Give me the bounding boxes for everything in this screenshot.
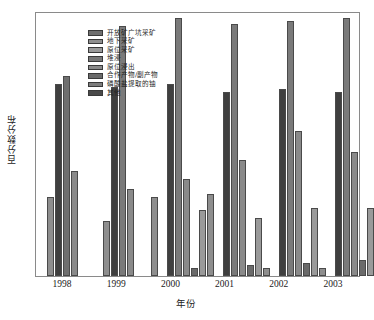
bar xyxy=(103,221,110,276)
legend-label: 磷酸盐提取的铀 xyxy=(107,81,156,88)
bar xyxy=(343,18,350,276)
y-axis-title: 百分数分布 xyxy=(2,0,20,278)
legend-item-5: 合作产物/副产物 xyxy=(88,72,158,80)
chart-legend: 开放矿广坑采矿地下采矿原位采矿堆浸原位浸出合作产物/副产物磷酸盐提取的铀其他 xyxy=(88,29,158,98)
legend-label: 合作产物/副产物 xyxy=(107,72,158,79)
bar xyxy=(167,84,174,276)
legend-label: 原位采矿 xyxy=(107,47,135,54)
legend-swatch-icon xyxy=(88,30,103,36)
legend-label: 堆浸 xyxy=(107,55,121,62)
legend-item-2: 原位采矿 xyxy=(88,46,158,54)
legend-item-0: 开放矿广坑采矿 xyxy=(88,29,158,37)
bar xyxy=(71,171,78,276)
bar xyxy=(127,189,134,276)
bar xyxy=(111,87,118,276)
legend-label: 其他 xyxy=(107,90,121,97)
legend-swatch-icon xyxy=(88,39,103,45)
plot-area: 开放矿广坑采矿地下采矿原位采矿堆浸原位浸出合作产物/副产物磷酸盐提取的铀其他 xyxy=(35,12,360,277)
bar xyxy=(255,218,262,276)
legend-swatch-icon xyxy=(88,65,103,71)
legend-item-6: 磷酸盐提取的铀 xyxy=(88,81,158,89)
x-tick-2002: 2002 xyxy=(252,279,306,289)
bar-group-2002 xyxy=(262,13,318,276)
bar xyxy=(247,265,254,276)
bar-group-2000 xyxy=(150,13,206,276)
bar xyxy=(191,268,198,276)
x-tick-2003: 2003 xyxy=(306,279,360,289)
legend-swatch-icon xyxy=(88,90,103,96)
bar-groups xyxy=(36,13,359,276)
x-tick-2000: 2000 xyxy=(143,279,197,289)
bar-group-1998 xyxy=(38,13,94,276)
bar xyxy=(319,268,326,276)
bar xyxy=(183,179,190,276)
bar xyxy=(151,197,158,276)
x-tick-1999: 1999 xyxy=(89,279,143,289)
bar xyxy=(223,92,230,276)
bar xyxy=(279,89,286,276)
x-tick-2001: 2001 xyxy=(198,279,252,289)
legend-swatch-icon xyxy=(88,56,103,62)
bar xyxy=(231,24,238,276)
legend-item-3: 堆浸 xyxy=(88,55,158,63)
bar xyxy=(47,197,54,276)
legend-swatch-icon xyxy=(88,82,103,88)
bar xyxy=(351,152,358,276)
bar xyxy=(175,18,182,276)
bar-group-2003 xyxy=(318,13,374,276)
bar xyxy=(303,263,310,276)
x-tick-1998: 1998 xyxy=(35,279,89,289)
bar xyxy=(263,268,270,276)
bar xyxy=(287,21,294,276)
legend-item-1: 地下采矿 xyxy=(88,38,158,46)
legend-label: 地下采矿 xyxy=(107,38,135,45)
bar-group-2001 xyxy=(206,13,262,276)
bar xyxy=(199,210,206,276)
bar xyxy=(311,208,318,276)
bar xyxy=(335,92,342,276)
legend-swatch-icon xyxy=(88,47,103,53)
legend-swatch-icon xyxy=(88,73,103,79)
bar xyxy=(207,194,214,276)
legend-label: 开放矿广坑采矿 xyxy=(107,30,156,37)
bar xyxy=(239,160,246,276)
bar xyxy=(55,84,62,276)
x-axis-tick-labels: 199819992000200120022003 xyxy=(35,279,360,289)
bar xyxy=(359,260,366,276)
x-axis-title: 年份 xyxy=(0,296,372,310)
bar xyxy=(367,208,374,276)
bar xyxy=(295,131,302,276)
legend-item-7: 其他 xyxy=(88,89,158,97)
bar xyxy=(63,76,70,276)
legend-label: 原位浸出 xyxy=(107,64,135,71)
